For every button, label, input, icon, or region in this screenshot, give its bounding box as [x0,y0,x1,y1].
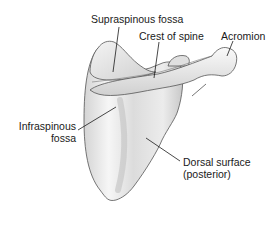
label-crest-of-spine: Crest of spine [139,30,204,42]
supraspinous-region [90,41,156,80]
label-supraspinous-fossa: Supraspinous fossa [91,13,183,25]
label-dorsal-line2: (posterior) [183,168,251,180]
label-acromion: Acromion [221,30,265,42]
label-infraspinous-fossa: Infraspinous fossa [18,120,76,144]
label-infraspinous-line1: Infraspinous [18,120,76,132]
label-dorsal-line1: Dorsal surface [183,156,251,168]
leader-acromion-shade [192,84,206,96]
label-infraspinous-line2: fossa [18,132,76,144]
label-dorsal-surface: Dorsal surface (posterior) [183,156,251,180]
coracoid-bump [168,55,189,66]
